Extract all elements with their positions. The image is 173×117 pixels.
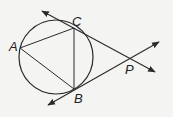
- tangent-line-at-b: [48, 42, 159, 105]
- point-label-p: P: [125, 62, 134, 77]
- segment-ac: [20, 28, 74, 48]
- point-label-a: A: [8, 39, 18, 54]
- segment-ab: [20, 48, 74, 89]
- diagram-svg: A B C P: [0, 0, 173, 117]
- geometry-diagram: A B C P: [0, 0, 173, 117]
- point-label-c: C: [72, 14, 82, 29]
- circle: [19, 20, 93, 94]
- tangent-line-at-c: [42, 11, 155, 72]
- point-label-b: B: [74, 91, 83, 106]
